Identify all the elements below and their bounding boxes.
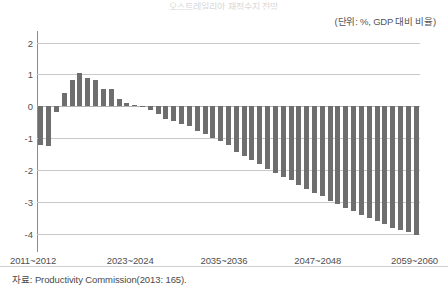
bar xyxy=(343,106,348,207)
x-tick-label: 2059~2060 xyxy=(391,255,438,266)
bar xyxy=(54,106,59,112)
bar-series xyxy=(37,33,420,250)
bar xyxy=(257,106,262,164)
bar xyxy=(171,106,176,120)
y-tick-label: -4 xyxy=(3,229,33,240)
footer-divider xyxy=(0,266,448,267)
x-tick-label: 2035~2036 xyxy=(201,255,248,266)
bar xyxy=(203,106,208,134)
bar xyxy=(117,99,122,106)
y-tick-label: -1 xyxy=(3,133,33,144)
x-tick-label: 2011~2012 xyxy=(10,255,56,266)
bar xyxy=(390,106,395,227)
bar xyxy=(218,106,223,141)
bar xyxy=(77,73,82,107)
y-tick-label: -2 xyxy=(3,165,33,176)
bar xyxy=(304,106,309,188)
bar xyxy=(382,106,387,224)
y-tick-label: 2 xyxy=(3,37,33,48)
bar xyxy=(406,106,411,232)
bar xyxy=(328,106,333,200)
bar xyxy=(62,93,67,106)
unit-caption: (단위: %, GDP 대비 비율) xyxy=(335,14,436,28)
bar xyxy=(359,106,364,215)
bar xyxy=(226,106,231,145)
bar xyxy=(132,105,137,107)
source-note: 자료: Productivity Commission(2013: 165). xyxy=(12,272,187,286)
bar xyxy=(335,106,340,203)
chart-title-clipped: 오스트레일리아 재정수지 전망 xyxy=(0,0,448,10)
bar xyxy=(38,106,43,144)
bar xyxy=(179,106,184,124)
x-tick-label: 2047~2048 xyxy=(294,255,341,266)
bar xyxy=(85,78,90,106)
plot-area xyxy=(37,33,420,250)
bar xyxy=(124,103,129,107)
bar xyxy=(249,106,254,160)
y-tick-label: 1 xyxy=(3,69,33,80)
bar xyxy=(101,89,106,107)
y-tick-label: -3 xyxy=(3,197,33,208)
bar xyxy=(46,106,51,146)
bar xyxy=(312,106,317,192)
y-axis-tick-labels: 210-1-2-3-4 xyxy=(0,33,33,250)
bar xyxy=(156,106,161,114)
bar xyxy=(296,106,301,184)
y-tick-label: 0 xyxy=(3,101,33,112)
x-axis-tick-labels: 2011~20122023~20242035~20362047~20482059… xyxy=(0,255,448,271)
bar xyxy=(210,106,215,137)
bar xyxy=(242,106,247,155)
bar xyxy=(140,106,145,107)
bar xyxy=(187,106,192,126)
bar xyxy=(109,89,114,107)
bar xyxy=(281,106,286,176)
chart-figure: 오스트레일리아 재정수지 전망 (단위: %, GDP 대비 비율) 210-1… xyxy=(0,0,448,292)
bar xyxy=(289,106,294,180)
bar xyxy=(148,106,153,110)
bar xyxy=(163,106,168,118)
bar xyxy=(367,106,372,218)
bar xyxy=(265,106,270,168)
bar xyxy=(273,106,278,172)
bar xyxy=(70,80,75,106)
bar xyxy=(414,106,419,234)
bar xyxy=(351,106,356,211)
x-tick-label: 2023~2024 xyxy=(107,255,154,266)
bar xyxy=(398,106,403,230)
bar xyxy=(93,80,98,106)
bar xyxy=(234,106,239,151)
bar xyxy=(320,106,325,196)
bar xyxy=(195,106,200,131)
bar xyxy=(375,106,380,221)
